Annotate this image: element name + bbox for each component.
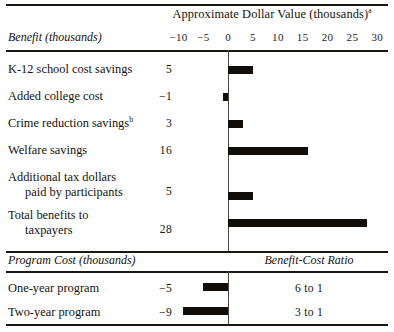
- bar-cost-1: [183, 307, 228, 315]
- axis-tick-30: 30: [371, 31, 383, 43]
- row-value-cost-1: −9: [112, 306, 172, 319]
- row-label-line1: Welfare savings: [8, 143, 87, 157]
- cost-section-start-rule: [6, 271, 388, 273]
- row-label-cost-0: One-year program: [8, 281, 99, 296]
- row-label-line1: Added college cost: [8, 89, 103, 103]
- row-value-benefit-3: 16: [112, 144, 172, 157]
- table-top-rule: [6, 4, 388, 6]
- row-value-benefit-2: 3: [112, 117, 172, 130]
- axis-tick-15: 15: [297, 31, 309, 43]
- row-value-benefit-1: −1: [112, 90, 172, 103]
- table-bottom-rule: [6, 324, 388, 326]
- axis-tick-0: 0: [225, 31, 231, 43]
- row-label-benefit-4: Additional tax dollarspaid by participan…: [8, 170, 123, 199]
- row-label-line1: Crime reduction savings: [8, 116, 129, 130]
- benefit-cost-table-figure: Approximate Dollar Value (thousands)a Be…: [0, 0, 394, 332]
- row-value-benefit-5: 28: [112, 223, 172, 236]
- header-separator-rule: [6, 50, 388, 52]
- benefit-cost-ratio-header: Benefit-Cost Ratio: [229, 253, 389, 268]
- bar-benefit-5: [228, 219, 367, 227]
- row-label-cost-1: Two-year program: [8, 305, 100, 320]
- row-label-line1: Additional tax dollars: [8, 170, 116, 184]
- benefit-cost-ratio-0: 6 to 1: [229, 282, 389, 295]
- row-value-benefit-4: 5: [112, 185, 172, 198]
- axis-title-text: Approximate Dollar Value (thousands): [172, 7, 368, 21]
- bar-benefit-1: [223, 93, 228, 102]
- bar-benefit-0: [228, 66, 253, 74]
- bar-benefit-4: [228, 192, 253, 200]
- axis-tick-20: 20: [322, 31, 334, 43]
- axis-tick-25: 25: [347, 31, 359, 43]
- bar-benefit-3: [228, 147, 308, 155]
- row-label-line1: Total benefits to: [8, 208, 88, 222]
- row-label-benefit-1: Added college cost: [8, 89, 103, 104]
- axis-title-footnote-marker: a: [368, 6, 371, 15]
- program-cost-header: Program Cost (thousands): [8, 253, 136, 268]
- axis-tick-neg10: −10: [169, 31, 187, 43]
- row-value-cost-0: −5: [112, 282, 172, 295]
- bar-cost-0: [203, 283, 228, 291]
- row-value-benefit-0: 5: [112, 63, 172, 76]
- row-label-line2: paid by participants: [8, 185, 123, 200]
- bar-benefit-2: [228, 120, 243, 128]
- benefit-column-header: Benefit (thousands): [8, 30, 102, 45]
- row-label-benefit-5: Total benefits totaxpayers: [8, 208, 88, 237]
- benefit-cost-ratio-1: 3 to 1: [229, 306, 389, 319]
- axis-tick-10: 10: [272, 31, 284, 43]
- row-label-benefit-3: Welfare savings: [8, 143, 87, 158]
- axis-tick-5: 5: [250, 31, 256, 43]
- row-label-line2: taxpayers: [8, 223, 88, 238]
- axis-tick-neg5: −5: [197, 31, 210, 43]
- axis-title: Approximate Dollar Value (thousands)a: [150, 7, 394, 22]
